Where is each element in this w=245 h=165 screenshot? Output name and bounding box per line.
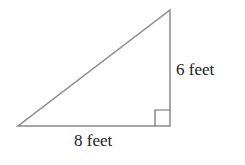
right-triangle xyxy=(18,10,170,126)
horizontal-side-label: 8 feet xyxy=(74,131,112,151)
vertical-side-label: 6 feet xyxy=(176,60,214,80)
triangle-figure xyxy=(0,0,245,165)
right-angle-marker xyxy=(155,110,170,126)
